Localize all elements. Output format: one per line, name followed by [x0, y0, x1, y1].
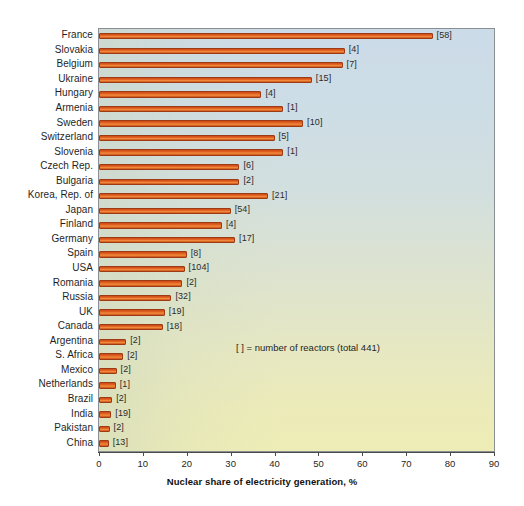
- bar: [99, 62, 343, 68]
- bar-row: [1]: [99, 145, 494, 160]
- nuclear-share-bar-chart: FranceSlovakiaBelgiumUkraineHungaryArmen…: [0, 0, 524, 506]
- y-axis-label-korea-rep-of: Korea, Rep. of: [0, 189, 93, 200]
- bar-row: [17]: [99, 233, 494, 248]
- bar-value-label: [1]: [120, 379, 130, 389]
- y-axis-label-france: France: [0, 29, 93, 40]
- bar: [99, 33, 433, 39]
- bar-value-label: [2]: [130, 335, 140, 345]
- x-axis-tick-label: 90: [489, 458, 500, 469]
- bar: [99, 411, 111, 417]
- y-axis-label-s-africa: S. Africa: [0, 349, 93, 360]
- x-axis-tick: [231, 452, 232, 456]
- bar-row: [15]: [99, 73, 494, 88]
- bar-row: [10]: [99, 116, 494, 131]
- bar: [99, 77, 312, 83]
- bar-value-label: [2]: [127, 350, 137, 360]
- bar-row: [4]: [99, 87, 494, 102]
- y-axis-label-germany: Germany: [0, 233, 93, 244]
- bar: [99, 266, 185, 272]
- x-axis-tick: [494, 452, 495, 456]
- bar-row: [19]: [99, 407, 494, 422]
- reactor-count-legend: [ ] = number of reactors (total 441): [236, 342, 380, 353]
- bar-row: [2]: [99, 175, 494, 190]
- bar: [99, 280, 182, 286]
- bar: [99, 251, 187, 257]
- bar-value-label: [54]: [235, 204, 250, 214]
- y-axis-label-argentina: Argentina: [0, 335, 93, 346]
- y-axis-label-brazil: Brazil: [0, 393, 93, 404]
- bar-row: [32]: [99, 291, 494, 306]
- bar-value-label: [19]: [169, 306, 184, 316]
- y-axis-label-canada: Canada: [0, 320, 93, 331]
- bar: [99, 368, 117, 374]
- bar: [99, 339, 126, 345]
- bar-value-label: [19]: [115, 408, 130, 418]
- bar-value-label: [2]: [116, 393, 126, 403]
- y-axis-label-finland: Finland: [0, 218, 93, 229]
- x-axis-tick-label: 0: [96, 458, 101, 469]
- bar-row: [2]: [99, 393, 494, 408]
- x-axis-tick: [275, 452, 276, 456]
- bar: [99, 397, 112, 403]
- y-axis-label-china: China: [0, 437, 93, 448]
- y-axis-label-netherlands: Netherlands: [0, 378, 93, 389]
- bar-row: [13]: [99, 436, 494, 451]
- y-axis-label-hungary: Hungary: [0, 87, 93, 98]
- bar: [99, 106, 283, 112]
- x-axis-tick-label: 50: [313, 458, 324, 469]
- bar-row: [104]: [99, 262, 494, 277]
- bar-row: [7]: [99, 58, 494, 73]
- bar: [99, 237, 235, 243]
- y-axis-label-uk: UK: [0, 306, 93, 317]
- plot-area: [58][4][7][15][4][1][10][5][1][6][2][21]…: [98, 28, 495, 452]
- bar: [99, 324, 163, 330]
- bar-value-label: [104]: [189, 262, 210, 272]
- y-axis-label-bulgaria: Bulgaria: [0, 175, 93, 186]
- bar-value-label: [4]: [349, 44, 359, 54]
- bar-value-label: [8]: [191, 248, 201, 258]
- x-axis-tick-label: 60: [357, 458, 368, 469]
- x-axis-tick-label: 80: [445, 458, 456, 469]
- bar-row: [8]: [99, 247, 494, 262]
- bar-value-label: [13]: [113, 437, 128, 447]
- bar-value-label: [4]: [265, 88, 275, 98]
- y-axis-label-usa: USA: [0, 262, 93, 273]
- x-axis-tick: [362, 452, 363, 456]
- bar-row: [2]: [99, 364, 494, 379]
- bar-value-label: [58]: [437, 30, 452, 40]
- x-axis: 0102030405060708090: [98, 452, 495, 453]
- bar: [99, 164, 239, 170]
- y-axis-label-mexico: Mexico: [0, 364, 93, 375]
- x-axis-tick-label: 40: [269, 458, 280, 469]
- bar-row: [58]: [99, 29, 494, 44]
- bar-value-label: [4]: [226, 219, 236, 229]
- bar-value-label: [32]: [175, 291, 190, 301]
- x-axis-tick-label: 20: [181, 458, 192, 469]
- bar: [99, 135, 275, 141]
- x-axis-line: [98, 452, 495, 453]
- bar: [99, 295, 171, 301]
- bar-value-label: [6]: [243, 160, 253, 170]
- bar-value-label: [18]: [167, 321, 182, 331]
- bar: [99, 193, 268, 199]
- y-axis-label-russia: Russia: [0, 291, 93, 302]
- y-axis-category-labels: FranceSlovakiaBelgiumUkraineHungaryArmen…: [0, 28, 93, 452]
- y-axis-label-japan: Japan: [0, 204, 93, 215]
- x-axis-tick: [187, 452, 188, 456]
- x-axis-tick: [450, 452, 451, 456]
- bar: [99, 208, 231, 214]
- y-axis-label-slovenia: Slovenia: [0, 146, 93, 157]
- bar-row: [4]: [99, 44, 494, 59]
- y-axis-label-romania: Romania: [0, 277, 93, 288]
- bar: [99, 426, 110, 432]
- bar-value-label: [1]: [287, 102, 297, 112]
- bar-value-label: [2]: [114, 422, 124, 432]
- bar-value-label: [10]: [307, 117, 322, 127]
- bar-row: [2]: [99, 276, 494, 291]
- bar: [99, 120, 303, 126]
- x-axis-tick: [406, 452, 407, 456]
- bar-row: [21]: [99, 189, 494, 204]
- bar-row: [1]: [99, 102, 494, 117]
- y-axis-label-czech-rep: Czech Rep.: [0, 160, 93, 171]
- bar-row: [4]: [99, 218, 494, 233]
